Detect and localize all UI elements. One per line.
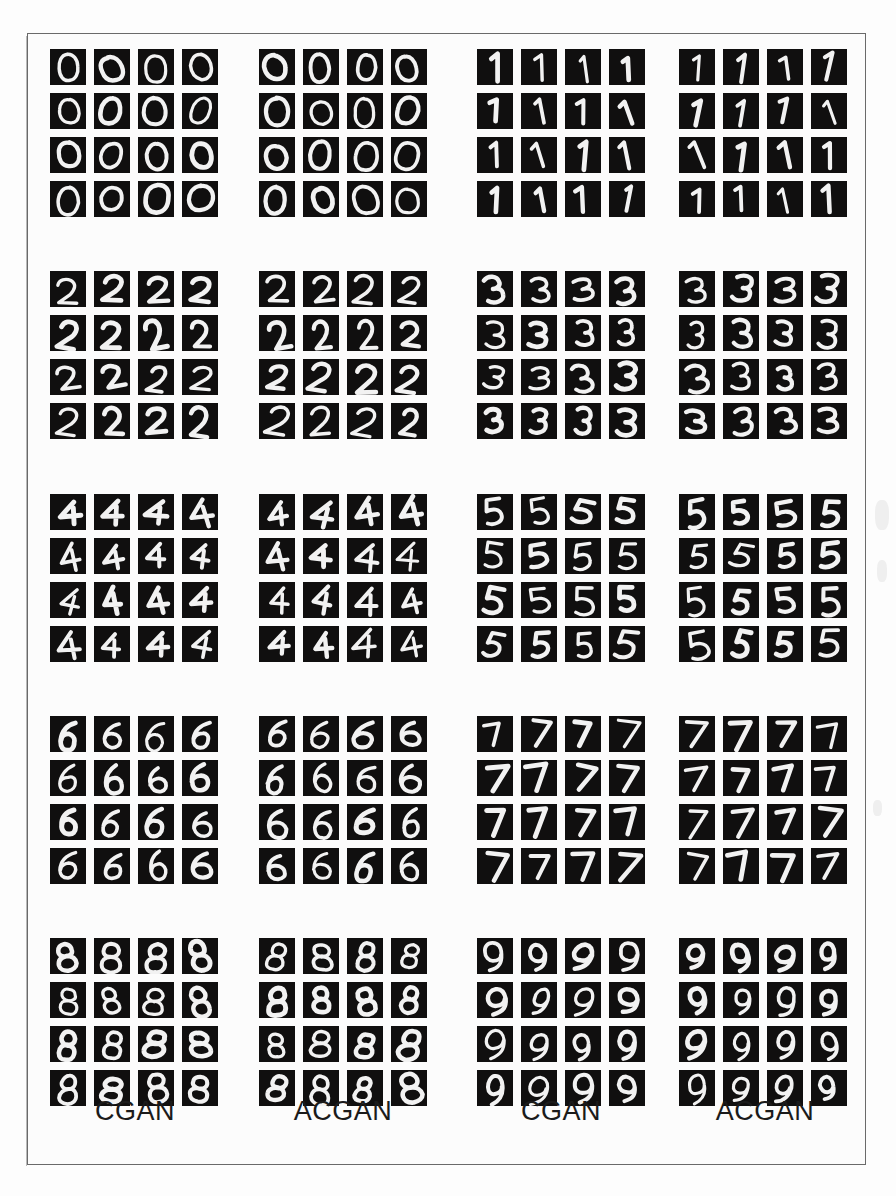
digit-sample-tile [609, 49, 645, 85]
digit-sample-tile [609, 93, 645, 129]
scan-artifact [873, 800, 882, 816]
digit-sample-tile [347, 760, 383, 796]
digit-sample-tile [50, 315, 86, 351]
digit-sample-tile [723, 982, 759, 1018]
digit-sample-tile [182, 315, 218, 351]
digit-sample-tile [50, 494, 86, 530]
digit-sample-tile [679, 49, 715, 85]
digit-sample-tile [565, 1026, 601, 1062]
digit-sample-tile [609, 494, 645, 530]
digit-sample-tile [811, 137, 847, 173]
digit-sample-tile [679, 938, 715, 974]
digit-sample-tile [182, 582, 218, 618]
digit-sample-tile [723, 494, 759, 530]
digit-sample-tile [94, 137, 130, 173]
digit-sample-tile [94, 538, 130, 574]
digit-sample-tile [811, 359, 847, 395]
digit-sample-tile [303, 938, 339, 974]
digit-sample-tile [182, 626, 218, 662]
digit-sample-tile [182, 271, 218, 307]
digit-sample-tile [182, 848, 218, 884]
digit-sample-tile [347, 938, 383, 974]
digit-sample-tile [565, 804, 601, 840]
sample-block-acgan-digit-1 [679, 49, 847, 217]
digit-sample-tile [347, 494, 383, 530]
digit-sample-tile [138, 93, 174, 129]
digit-sample-tile [521, 181, 557, 217]
sample-block-acgan-digit-8 [259, 938, 427, 1106]
figure-frame: CGAN ACGAN CGAN ACGAN [27, 33, 866, 1165]
digit-sample-tile [94, 359, 130, 395]
digit-sample-tile [182, 716, 218, 752]
digit-sample-tile [767, 626, 803, 662]
digit-sample-tile [303, 804, 339, 840]
digit-sample-tile [303, 49, 339, 85]
digit-sample-tile [679, 982, 715, 1018]
digit-sample-tile [723, 804, 759, 840]
digit-sample-tile [347, 848, 383, 884]
digit-sample-tile [477, 403, 513, 439]
digit-sample-tile [521, 848, 557, 884]
digit-sample-tile [477, 315, 513, 351]
column-caption-acgan-right: ACGAN [680, 1096, 850, 1127]
digit-sample-tile [50, 848, 86, 884]
digit-sample-tile [723, 582, 759, 618]
digit-sample-tile [767, 848, 803, 884]
digit-sample-tile [609, 804, 645, 840]
digit-sample-tile [94, 403, 130, 439]
digit-sample-tile [811, 938, 847, 974]
digit-sample-tile [182, 137, 218, 173]
digit-sample-tile [259, 137, 295, 173]
digit-sample-tile [811, 804, 847, 840]
digit-grid [259, 938, 427, 1106]
digit-sample-tile [94, 626, 130, 662]
digit-sample-tile [391, 716, 427, 752]
digit-sample-tile [50, 582, 86, 618]
digit-sample-tile [94, 49, 130, 85]
digit-sample-tile [679, 93, 715, 129]
digit-sample-tile [767, 982, 803, 1018]
digit-sample-tile [138, 982, 174, 1018]
digit-sample-tile [521, 93, 557, 129]
digit-grid [679, 49, 847, 217]
digit-sample-tile [723, 1026, 759, 1062]
digit-sample-tile [138, 848, 174, 884]
digit-sample-tile [94, 1026, 130, 1062]
column-caption-cgan-left: CGAN [50, 1096, 220, 1127]
digit-sample-tile [609, 137, 645, 173]
digit-sample-tile [391, 271, 427, 307]
digit-sample-tile [521, 315, 557, 351]
digit-sample-tile [138, 1026, 174, 1062]
digit-sample-tile [94, 938, 130, 974]
sample-block-cgan-digit-3 [477, 271, 645, 439]
digit-sample-tile [521, 49, 557, 85]
digit-sample-tile [477, 494, 513, 530]
digit-sample-tile [679, 848, 715, 884]
sample-block-cgan-digit-2 [50, 271, 218, 439]
digit-sample-tile [565, 181, 601, 217]
digit-sample-tile [94, 848, 130, 884]
digit-sample-tile [565, 982, 601, 1018]
digit-sample-tile [259, 49, 295, 85]
scan-artifact [875, 500, 889, 530]
digit-sample-tile [138, 494, 174, 530]
digit-sample-tile [391, 982, 427, 1018]
digit-sample-tile [182, 181, 218, 217]
digit-sample-tile [679, 403, 715, 439]
digit-sample-tile [391, 359, 427, 395]
digit-sample-tile [50, 49, 86, 85]
column-caption-acgan-left: ACGAN [258, 1096, 428, 1127]
digit-sample-tile [303, 403, 339, 439]
digit-sample-tile [767, 582, 803, 618]
digit-sample-tile [347, 538, 383, 574]
digit-sample-tile [521, 582, 557, 618]
digit-sample-tile [565, 403, 601, 439]
digit-grid [50, 49, 218, 217]
digit-sample-tile [347, 1026, 383, 1062]
digit-sample-tile [50, 538, 86, 574]
digit-sample-tile [303, 760, 339, 796]
digit-grid [50, 716, 218, 884]
digit-sample-tile [303, 848, 339, 884]
digit-sample-tile [259, 181, 295, 217]
digit-sample-tile [811, 626, 847, 662]
